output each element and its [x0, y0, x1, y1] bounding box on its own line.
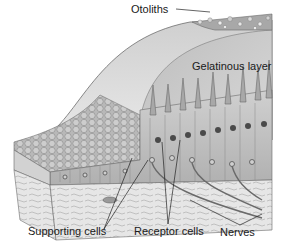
label-nerves: Nerves	[220, 226, 255, 238]
label-supporting-cells: Supporting cells	[28, 225, 106, 237]
otolith-organ-diagram: Otoliths Gelatinous layer Supporting cel…	[0, 0, 284, 248]
diagram-illustration	[0, 0, 284, 248]
label-gelatinous-layer: Gelatinous layer	[192, 60, 272, 72]
label-otoliths: Otoliths	[131, 3, 168, 15]
label-receptor-cells: Receptor cells	[134, 225, 204, 237]
